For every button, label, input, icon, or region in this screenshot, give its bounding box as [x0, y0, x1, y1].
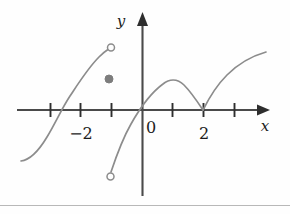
tick-label-plus-2: 2 — [199, 124, 209, 143]
open-circle-upper-point — [108, 44, 115, 51]
filled-point — [105, 75, 113, 83]
tick-label-minus-2: −2 — [69, 124, 93, 143]
origin-label: 0 — [146, 118, 156, 137]
figure-root: y x 0 −2 2 — [0, 0, 290, 214]
figure-background — [0, 0, 290, 214]
y-axis-label: y — [116, 12, 126, 30]
open-circle-lower-point — [107, 173, 114, 180]
x-axis-label: x — [261, 117, 270, 135]
function-graph: y x 0 −2 2 — [0, 0, 290, 214]
